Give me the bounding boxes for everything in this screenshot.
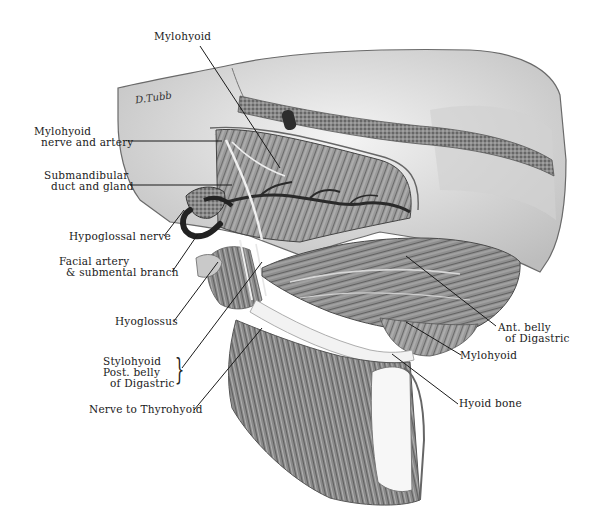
label-mylohyoid-nerve-artery: Mylohyoid nerve and artery [34, 126, 134, 148]
label-stylohyoid-digastric: Stylohyoid Post. belly of Digastric [103, 356, 175, 389]
label-facial-artery: Facial artery & submental branch [59, 256, 179, 278]
label-nerve-thyrohyoid: Nerve to Thyrohyoid [89, 404, 203, 415]
label-mylohyoid-top: Mylohyoid [154, 31, 211, 42]
label-mylohyoid-right: Mylohyoid [460, 350, 517, 361]
label-ant-belly-digastric: Ant. belly of Digastric [498, 322, 570, 344]
label-submandibular-duct-gland: Submandibular duct and gland [44, 170, 134, 192]
label-hyoglossus: Hyoglossus [115, 316, 178, 327]
label-hyoid-bone: Hyoid bone [459, 398, 522, 409]
label-brace: } [175, 354, 185, 384]
hyoglossus-region [196, 240, 266, 309]
label-hypoglossal-nerve: Hypoglossal nerve [69, 231, 171, 242]
